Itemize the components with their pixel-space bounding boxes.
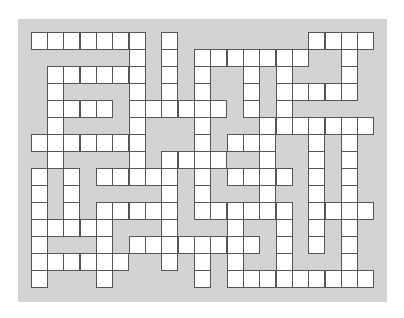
grid-cell[interactable]	[161, 202, 178, 220]
grid-cell[interactable]	[63, 134, 80, 152]
grid-cell[interactable]	[194, 100, 211, 118]
grid-cell[interactable]	[259, 151, 276, 169]
grid-cell[interactable]	[194, 151, 211, 169]
grid-cell[interactable]	[292, 270, 309, 288]
grid-cell[interactable]	[31, 270, 48, 288]
grid-cell[interactable]	[63, 185, 80, 203]
grid-cell[interactable]	[47, 253, 64, 271]
grid-cell[interactable]	[341, 32, 358, 50]
grid-cell[interactable]	[161, 49, 178, 67]
grid-cell[interactable]	[31, 236, 48, 254]
grid-cell[interactable]	[194, 168, 211, 186]
grid-cell[interactable]	[145, 100, 162, 118]
grid-cell[interactable]	[308, 236, 325, 254]
grid-cell[interactable]	[341, 117, 358, 135]
grid-cell[interactable]	[31, 32, 48, 50]
grid-cell[interactable]	[194, 253, 211, 271]
grid-cell[interactable]	[243, 49, 260, 67]
grid-cell[interactable]	[227, 202, 244, 220]
grid-cell[interactable]	[308, 83, 325, 101]
grid-cell[interactable]	[96, 134, 113, 152]
grid-cell[interactable]	[31, 168, 48, 186]
grid-cell[interactable]	[161, 253, 178, 271]
grid-cell[interactable]	[243, 134, 260, 152]
grid-cell[interactable]	[112, 202, 129, 220]
grid-cell[interactable]	[129, 117, 146, 135]
grid-cell[interactable]	[161, 66, 178, 84]
grid-cell[interactable]	[63, 202, 80, 220]
grid-cell[interactable]	[161, 219, 178, 237]
grid-cell[interactable]	[145, 202, 162, 220]
grid-cell[interactable]	[325, 202, 342, 220]
grid-cell[interactable]	[292, 49, 309, 67]
grid-cell[interactable]	[341, 151, 358, 169]
grid-cell[interactable]	[243, 168, 260, 186]
grid-cell[interactable]	[259, 185, 276, 203]
grid-cell[interactable]	[47, 151, 64, 169]
grid-cell[interactable]	[80, 66, 97, 84]
grid-cell[interactable]	[194, 49, 211, 67]
grid-cell[interactable]	[31, 185, 48, 203]
grid-cell[interactable]	[96, 32, 113, 50]
grid-cell[interactable]	[357, 117, 374, 135]
grid-cell[interactable]	[276, 168, 293, 186]
grid-cell[interactable]	[47, 32, 64, 50]
grid-cell[interactable]	[210, 202, 227, 220]
grid-cell[interactable]	[129, 66, 146, 84]
grid-cell[interactable]	[243, 66, 260, 84]
grid-cell[interactable]	[194, 117, 211, 135]
grid-cell[interactable]	[80, 32, 97, 50]
grid-cell[interactable]	[161, 83, 178, 101]
grid-cell[interactable]	[341, 134, 358, 152]
grid-cell[interactable]	[210, 236, 227, 254]
grid-cell[interactable]	[308, 202, 325, 220]
grid-cell[interactable]	[357, 202, 374, 220]
grid-cell[interactable]	[161, 100, 178, 118]
grid-cell[interactable]	[129, 236, 146, 254]
grid-cell[interactable]	[227, 219, 244, 237]
grid-cell[interactable]	[47, 134, 64, 152]
grid-cell[interactable]	[47, 219, 64, 237]
grid-cell[interactable]	[341, 168, 358, 186]
grid-cell[interactable]	[47, 117, 64, 135]
grid-cell[interactable]	[161, 151, 178, 169]
grid-cell[interactable]	[47, 83, 64, 101]
grid-cell[interactable]	[31, 219, 48, 237]
grid-cell[interactable]	[112, 32, 129, 50]
grid-cell[interactable]	[259, 202, 276, 220]
grid-cell[interactable]	[96, 253, 113, 271]
grid-cell[interactable]	[96, 202, 113, 220]
grid-cell[interactable]	[194, 185, 211, 203]
grid-cell[interactable]	[63, 168, 80, 186]
grid-cell[interactable]	[341, 270, 358, 288]
grid-cell[interactable]	[31, 134, 48, 152]
grid-cell[interactable]	[276, 270, 293, 288]
grid-cell[interactable]	[112, 168, 129, 186]
grid-cell[interactable]	[47, 100, 64, 118]
grid-cell[interactable]	[96, 168, 113, 186]
grid-cell[interactable]	[112, 253, 129, 271]
grid-cell[interactable]	[194, 134, 211, 152]
grid-cell[interactable]	[161, 185, 178, 203]
grid-cell[interactable]	[194, 66, 211, 84]
grid-cell[interactable]	[129, 32, 146, 50]
grid-cell[interactable]	[341, 49, 358, 67]
grid-cell[interactable]	[341, 236, 358, 254]
grid-cell[interactable]	[210, 100, 227, 118]
grid-cell[interactable]	[341, 66, 358, 84]
grid-cell[interactable]	[292, 83, 309, 101]
grid-cell[interactable]	[276, 49, 293, 67]
grid-cell[interactable]	[63, 253, 80, 271]
grid-cell[interactable]	[194, 270, 211, 288]
grid-cell[interactable]	[243, 236, 260, 254]
grid-cell[interactable]	[80, 253, 97, 271]
grid-cell[interactable]	[259, 117, 276, 135]
grid-cell[interactable]	[325, 83, 342, 101]
grid-cell[interactable]	[129, 202, 146, 220]
grid-cell[interactable]	[243, 83, 260, 101]
grid-cell[interactable]	[341, 253, 358, 271]
grid-cell[interactable]	[112, 66, 129, 84]
grid-cell[interactable]	[308, 32, 325, 50]
grid-cell[interactable]	[308, 185, 325, 203]
grid-cell[interactable]	[96, 219, 113, 237]
